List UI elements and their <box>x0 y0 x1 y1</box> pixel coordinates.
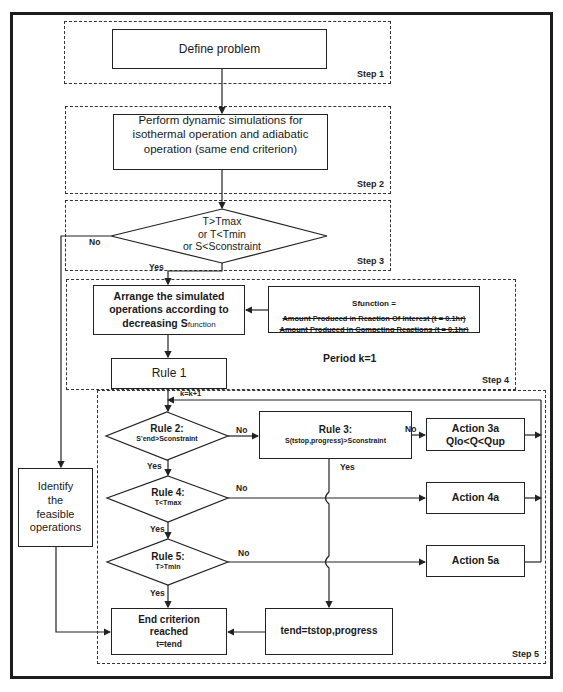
rule3-no-label: No <box>405 424 416 434</box>
action5a-box: Action 5a <box>426 545 525 577</box>
arrange-line-3-main: decreasing S <box>122 317 187 329</box>
step3-cond-3: or S<Sconstraint <box>152 240 292 253</box>
define-problem-text: Define problem <box>179 42 260 57</box>
arrange-line-3: decreasing Sfunction <box>122 317 215 330</box>
tend-text: tend=tstop,progress <box>281 625 378 638</box>
rule1-box: Rule 1 <box>111 358 227 389</box>
identify-line-3: feasible <box>37 508 75 522</box>
step3-cond-1: T>Tmax <box>152 215 292 228</box>
action3a-box: Action 3a Qlo<Q<Qup <box>426 418 525 451</box>
sfunction-box: Sfunction = Amount Produced in Reaction … <box>268 286 480 333</box>
period-label: Period k=1 <box>323 352 376 364</box>
action3a-condition: Qlo<Q<Qup <box>446 435 505 447</box>
sfunction-numerator: Amount Produced in Reaction Of Interest … <box>282 314 465 323</box>
end-criterion-line-3: t=tend <box>156 639 182 650</box>
rule4-no-label: No <box>236 483 247 493</box>
end-criterion-line-1: End criterion <box>138 614 200 627</box>
rule1-text: Rule 1 <box>152 366 187 381</box>
arrange-line-2: operations according to <box>109 303 229 316</box>
perform-simulations-box: Perform dynamic simulations for isotherm… <box>113 114 328 170</box>
rule2-title: Rule 2: <box>117 423 217 435</box>
identify-box: Identify the feasible operations <box>18 468 93 547</box>
tend-box: tend=tstop,progress <box>265 608 393 655</box>
rule4-text: Rule 4: T<Tmax <box>118 487 218 507</box>
rule3-yes-label: Yes <box>340 462 355 472</box>
step3-decision-text: T>Tmax or T<Tmin or S<Sconstraint <box>152 215 292 253</box>
rule3-title: Rule 3: <box>319 424 352 437</box>
identify-line-4: operations <box>30 521 81 535</box>
sfunction-title: Sfunction = <box>352 299 396 309</box>
arrange-line-1: Arrange the simulated <box>114 290 225 303</box>
rule4-title: Rule 4: <box>118 487 218 499</box>
define-problem-box: Define problem <box>112 29 327 69</box>
loop-label: k=k+1 <box>180 389 201 398</box>
identify-line-2: the <box>48 494 63 508</box>
rule5-yes-label: Yes <box>150 588 165 598</box>
rule5-title: Rule 5: <box>118 551 218 563</box>
rule5-no-label: No <box>238 548 249 558</box>
rule5-text: Rule 5: T>Tmin <box>118 551 218 571</box>
step3-no-label: No <box>89 237 100 247</box>
perform-simulations-text: Perform dynamic simulations for isotherm… <box>116 113 325 156</box>
rule5-condition: T>Tmin <box>118 563 218 571</box>
rule3-condition: S(tstop,progress)>Sconstraint <box>285 437 386 446</box>
rule4-yes-label: Yes <box>150 524 165 534</box>
rule2-condition: S'end>Sconstraint <box>117 435 217 443</box>
connectors <box>0 0 563 692</box>
end-criterion-box: End criterion reached t=tend <box>111 608 227 655</box>
action4a-text: Action 4a <box>452 491 499 504</box>
rule2-no-label: No <box>236 425 247 435</box>
rule2-text: Rule 2: S'end>Sconstraint <box>117 423 217 443</box>
arrange-box: Arrange the simulated operations accordi… <box>93 285 245 335</box>
end-criterion-line-2: reached <box>150 626 188 639</box>
action4a-box: Action 4a <box>426 482 525 514</box>
sfunction-denominator: Amount Produced in Competing Reactions (… <box>280 325 469 333</box>
rule2-yes-label: Yes <box>147 461 162 471</box>
step3-yes-label: Yes <box>149 262 164 272</box>
action3a-title: Action 3a <box>452 422 499 434</box>
arrange-line-3-sub: function <box>188 320 216 329</box>
step3-cond-2: or T<Tmin <box>152 228 292 241</box>
rule4-condition: T<Tmax <box>118 499 218 507</box>
identify-line-1: Identify <box>38 480 73 494</box>
action5a-text: Action 5a <box>452 554 499 567</box>
rule3-box: Rule 3: S(tstop,progress)>Sconstraint <box>259 411 412 459</box>
